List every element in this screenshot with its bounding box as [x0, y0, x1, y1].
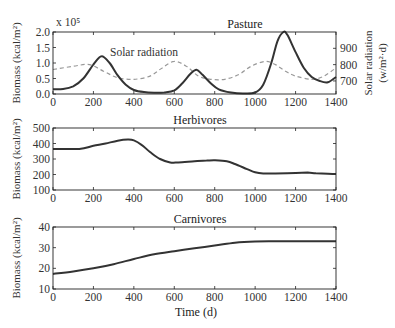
svg-text:300: 300 [33, 153, 51, 165]
svg-text:400: 400 [125, 291, 143, 303]
x-axis-label: Time (d) [175, 305, 217, 319]
svg-text:1200: 1200 [284, 192, 307, 204]
svg-text:800: 800 [340, 59, 358, 71]
figure: Pasture x 10⁵ Solar radiation 0.00.51.01… [0, 0, 395, 328]
svg-text:0: 0 [50, 96, 56, 108]
svg-text:30: 30 [39, 242, 51, 254]
svg-text:600: 600 [166, 96, 184, 108]
svg-text:2.0: 2.0 [36, 26, 51, 38]
svg-text:1200: 1200 [284, 291, 307, 303]
herbivores-axes [53, 128, 336, 190]
pasture-y2label-line1: Solar radiation [362, 30, 374, 96]
svg-text:200: 200 [85, 96, 103, 108]
svg-text:700: 700 [340, 75, 358, 87]
herbivores-title: Herbivores [173, 113, 227, 127]
svg-text:1000: 1000 [244, 192, 267, 204]
svg-text:1000: 1000 [244, 96, 267, 108]
svg-text:10: 10 [39, 283, 51, 295]
svg-text:400: 400 [125, 96, 143, 108]
svg-text:20: 20 [39, 262, 51, 274]
svg-text:200: 200 [33, 169, 51, 181]
svg-text:800: 800 [206, 96, 224, 108]
svg-text:800: 800 [206, 192, 224, 204]
pasture-panel: Pasture x 10⁵ Solar radiation 0.00.51.01… [10, 16, 389, 108]
svg-text:600: 600 [166, 192, 184, 204]
herbivores-ylabel: Biomass (kcal/m²) [10, 118, 23, 200]
svg-text:600: 600 [166, 291, 184, 303]
pasture-title: Pasture [227, 17, 262, 31]
pasture-y2label-line2: (w/m²·d) [376, 43, 389, 83]
svg-text:1.0: 1.0 [36, 57, 51, 69]
pasture-ylabel: Biomass (kcal/m²) [10, 22, 23, 104]
carnivores-x-ticks: 0200400600800100012001400 [50, 227, 348, 303]
svg-text:0: 0 [50, 291, 56, 303]
herbivores-panel: Herbivores 100200300400500 0200400600800… [10, 113, 348, 204]
carnivores-title: Carnivores [174, 212, 227, 226]
svg-text:400: 400 [33, 138, 51, 150]
svg-text:1.5: 1.5 [36, 42, 51, 54]
pasture-biomass-line [53, 32, 336, 94]
svg-text:1400: 1400 [325, 96, 348, 108]
solar-radiation-annotation: Solar radiation [110, 46, 178, 58]
carnivores-panel: Carnivores 10203040 02004006008001000120… [10, 212, 348, 319]
herbivores-y-ticks: 100200300400500 [33, 122, 336, 196]
svg-text:500: 500 [33, 122, 51, 134]
carnivores-line [53, 241, 336, 274]
svg-text:900: 900 [340, 42, 358, 54]
svg-text:1000: 1000 [244, 291, 267, 303]
herbivores-x-ticks: 0200400600800100012001400 [50, 128, 348, 204]
svg-text:0.5: 0.5 [36, 73, 51, 85]
svg-text:40: 40 [39, 221, 51, 233]
svg-text:0: 0 [50, 192, 56, 204]
svg-text:800: 800 [206, 291, 224, 303]
pasture-y2-ticks: 700800900 [333, 42, 358, 87]
svg-text:1400: 1400 [325, 291, 348, 303]
carnivores-ylabel: Biomass (kcal/m²) [10, 217, 23, 299]
carnivores-y-ticks: 10203040 [39, 221, 337, 295]
svg-text:100: 100 [33, 184, 51, 196]
svg-text:200: 200 [85, 291, 103, 303]
svg-text:1200: 1200 [284, 96, 307, 108]
svg-text:400: 400 [125, 192, 143, 204]
herbivores-line [53, 140, 336, 174]
svg-text:200: 200 [85, 192, 103, 204]
pasture-multiplier: x 10⁵ [56, 16, 80, 28]
svg-text:0.0: 0.0 [36, 88, 51, 100]
carnivores-axes [53, 227, 336, 289]
svg-text:1400: 1400 [325, 192, 348, 204]
